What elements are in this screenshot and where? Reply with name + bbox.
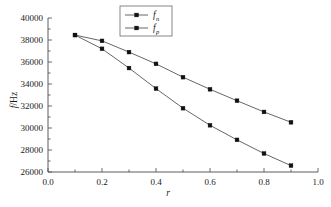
legend-marker-swatch bbox=[135, 26, 139, 30]
y-tick-label: 36000 bbox=[21, 57, 44, 67]
y-tick-label: 34000 bbox=[21, 79, 44, 89]
y-tick-label: 38000 bbox=[21, 35, 44, 45]
data-point-marker bbox=[154, 62, 158, 66]
data-point-marker bbox=[235, 138, 239, 142]
data-point-marker bbox=[181, 106, 185, 110]
y-tick-label: 30000 bbox=[21, 123, 44, 133]
x-tick-label: 0.8 bbox=[258, 177, 270, 187]
data-point-marker bbox=[208, 123, 212, 127]
legend-marker-swatch bbox=[135, 13, 139, 17]
x-tick-label: 0.2 bbox=[96, 177, 107, 187]
svg-text:f/Hz: f/Hz bbox=[9, 92, 19, 108]
x-tick-label: 0.0 bbox=[42, 177, 54, 187]
x-axis-tick-labels: 0.00.20.40.60.81.0 bbox=[42, 177, 324, 187]
x-tick-label: 0.4 bbox=[150, 177, 162, 187]
x-axis-title: r bbox=[166, 188, 170, 198]
chart-legend: fnfp bbox=[120, 6, 172, 36]
axis-frame bbox=[48, 18, 318, 172]
data-point-marker bbox=[289, 164, 293, 168]
data-point-marker bbox=[181, 75, 185, 79]
x-tick-label: 1.0 bbox=[312, 177, 324, 187]
data-point-marker bbox=[100, 39, 104, 43]
y-axis-tick-labels: 2600028000300003200034000360003800040000 bbox=[21, 13, 44, 177]
data-point-marker bbox=[262, 152, 266, 156]
data-point-marker bbox=[235, 99, 239, 103]
data-series-layer bbox=[73, 33, 293, 167]
series-line bbox=[75, 35, 291, 166]
data-point-marker bbox=[73, 33, 77, 37]
line-chart: 0.00.20.40.60.81.0 260002800030000320003… bbox=[0, 0, 331, 207]
y-axis-title: f/Hz bbox=[9, 92, 19, 108]
data-point-marker bbox=[289, 120, 293, 124]
y-tick-label: 28000 bbox=[21, 145, 44, 155]
y-axis-ticks bbox=[48, 18, 52, 172]
series-fp bbox=[73, 33, 293, 167]
chart-figure: 0.00.20.40.60.81.0 260002800030000320003… bbox=[0, 0, 331, 207]
data-point-marker bbox=[262, 110, 266, 114]
data-point-marker bbox=[208, 87, 212, 91]
series-fn bbox=[73, 33, 293, 124]
legend-box bbox=[120, 6, 172, 36]
y-tick-label: 32000 bbox=[21, 101, 44, 111]
data-point-marker bbox=[127, 66, 131, 70]
y-tick-label: 26000 bbox=[21, 167, 44, 177]
y-tick-label: 40000 bbox=[21, 13, 44, 23]
x-tick-label: 0.6 bbox=[204, 177, 216, 187]
x-axis-ticks bbox=[48, 168, 318, 172]
data-point-marker bbox=[100, 47, 104, 51]
data-point-marker bbox=[154, 87, 158, 91]
data-point-marker bbox=[127, 50, 131, 54]
